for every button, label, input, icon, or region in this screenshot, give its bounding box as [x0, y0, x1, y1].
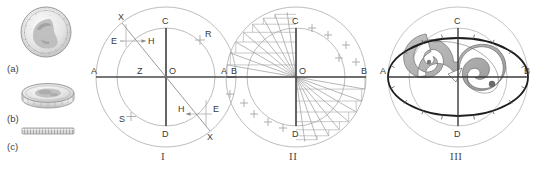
label-C: C — [454, 16, 461, 26]
diagram-II: A B C D O II — [208, 0, 383, 169]
label-A: A — [221, 66, 227, 76]
coin-label-c: (c) — [7, 141, 18, 152]
label-D: D — [454, 129, 461, 139]
coin-label-a: (a) — [7, 63, 19, 74]
label-A: A — [380, 66, 386, 76]
diagram-III: A B C D III — [374, 0, 542, 169]
label-A: A — [91, 66, 97, 76]
label-D: D — [292, 129, 299, 139]
coin-oblique-tilted — [22, 84, 74, 108]
diagram-II-radial-fan-upper-left — [226, 13, 296, 77]
diagram-II-radial-fan-lower-right — [296, 77, 366, 141]
diagram-II-axes — [226, 28, 366, 126]
label-C: C — [162, 16, 169, 26]
diagram-II-numeral: II — [289, 150, 297, 162]
label-B: B — [361, 66, 367, 76]
label-O: O — [299, 66, 306, 76]
label-E-upper: E — [111, 36, 117, 46]
label-X-upper: X — [118, 12, 124, 22]
label-Z: Z — [137, 66, 143, 76]
coin-obverse-face-on — [21, 7, 71, 57]
diagram-I-numeral: I — [161, 150, 165, 162]
figure-root: (a) — [0, 0, 542, 169]
label-O: O — [169, 66, 176, 76]
diagram-III-axes — [388, 28, 528, 126]
label-D: D — [162, 129, 169, 139]
coin-label-b: (b) — [7, 113, 19, 124]
label-C: C — [292, 16, 299, 26]
diagram-III-numeral: III — [450, 150, 463, 162]
label-H-lower: H — [178, 104, 185, 114]
diagram-II-plus-marks — [226, 24, 360, 132]
label-S: S — [119, 114, 125, 124]
coin-panel-group: (a) — [0, 0, 92, 169]
coin-edge-on-reeded — [22, 128, 74, 134]
label-H-upper: H — [148, 36, 155, 46]
label-B: B — [524, 66, 530, 76]
